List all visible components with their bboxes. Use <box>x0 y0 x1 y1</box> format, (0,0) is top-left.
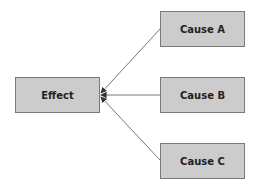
cause-b-box: Cause B <box>160 77 245 113</box>
cause-a-box: Cause A <box>160 11 245 47</box>
arrow-cause-a-to-effect <box>101 29 160 93</box>
cause-c-box: Cause C <box>160 143 245 179</box>
effect-label: Effect <box>41 90 73 101</box>
arrow-cause-c-to-effect <box>101 97 160 160</box>
cause-a-label: Cause A <box>180 24 225 35</box>
effect-box: Effect <box>15 77 100 113</box>
cause-b-label: Cause B <box>180 90 225 101</box>
cause-c-label: Cause C <box>180 156 225 167</box>
